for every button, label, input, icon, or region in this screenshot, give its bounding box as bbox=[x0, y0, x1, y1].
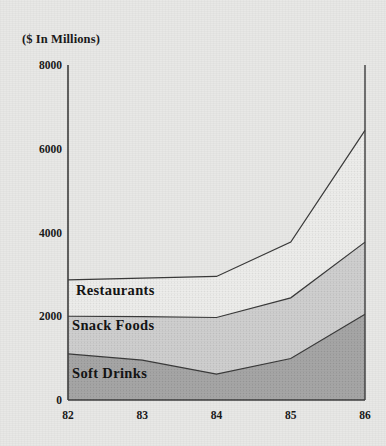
series-label-snack-foods: Snack Foods bbox=[72, 317, 154, 334]
series-label-soft-drinks: Soft Drinks bbox=[72, 365, 147, 382]
chart-page: ($ In Millions) 8000 6000 4000 2000 0 82… bbox=[0, 0, 386, 446]
series-label-restaurants: Restaurants bbox=[76, 282, 155, 299]
stacked-area-plot bbox=[0, 0, 386, 446]
